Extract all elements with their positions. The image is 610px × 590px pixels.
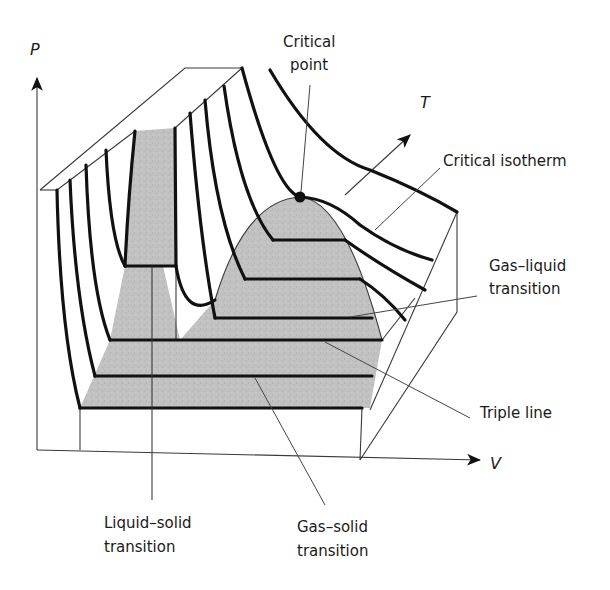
p-axis-label: P xyxy=(30,40,40,59)
critical-isotherm-label: Critical isotherm xyxy=(443,152,567,170)
critical-point-label-2: point xyxy=(290,56,328,74)
liquid-solid-label-1: Liquid–solid xyxy=(104,514,192,532)
gas-solid-label-2: transition xyxy=(297,542,368,560)
solid-liquid-region xyxy=(110,128,180,340)
pvt-diagram: P V T Critical point Critical isotherm G… xyxy=(0,0,610,590)
triple-line-label: Triple line xyxy=(479,404,552,422)
v-axis-label: V xyxy=(490,454,502,473)
liquid-solid-label-2: transition xyxy=(104,538,175,556)
isotherm-above xyxy=(242,68,300,197)
solid-gas-region xyxy=(80,340,382,408)
leader-critical-point xyxy=(301,85,310,192)
v-axis xyxy=(37,450,480,460)
gas-liquid-label-2: transition xyxy=(489,280,560,298)
t-axis-label: T xyxy=(420,93,431,112)
critical-point-marker xyxy=(295,192,306,203)
gas-solid-label-1: Gas–solid xyxy=(297,518,368,536)
critical-point-label-1: Critical xyxy=(283,33,335,51)
gas-liquid-label-1: Gas–liquid xyxy=(489,257,566,275)
